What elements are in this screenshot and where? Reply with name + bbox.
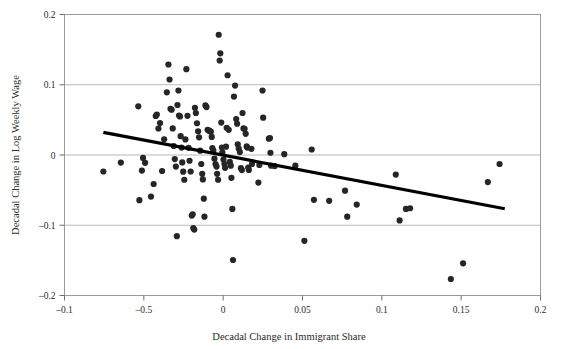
data-point (255, 179, 261, 185)
data-point (172, 156, 178, 162)
data-point (407, 205, 413, 211)
data-point (159, 168, 165, 174)
scatter-plot-figure: –0.1–0.500.050.10.150.2 0.20.10–0.1–0.2 … (0, 0, 563, 349)
data-point (239, 167, 245, 173)
data-point (222, 165, 228, 171)
data-point (218, 119, 224, 125)
data-point (203, 104, 209, 110)
data-point (148, 193, 154, 199)
data-point (267, 150, 273, 156)
data-point (191, 227, 197, 233)
data-point (485, 179, 491, 185)
data-point (165, 61, 171, 67)
data-point (209, 134, 215, 140)
data-point (208, 129, 214, 135)
data-point (239, 110, 245, 116)
data-point (260, 115, 266, 121)
data-point (173, 163, 179, 169)
data-point (342, 188, 348, 194)
data-point (169, 107, 175, 113)
data-point (397, 217, 403, 223)
data-point (232, 82, 238, 88)
data-point (192, 105, 198, 111)
data-point (199, 171, 205, 177)
data-point (223, 144, 229, 150)
data-point (170, 125, 176, 131)
data-point (234, 121, 240, 127)
y-tick-label: –0.2 (38, 291, 56, 301)
data-point (193, 110, 199, 116)
data-point (188, 168, 194, 174)
x-tick-label: –0.5 (135, 305, 153, 315)
y-axis-title: Decadal Change in Log Weekly Wage (10, 75, 21, 235)
data-point (184, 113, 190, 119)
data-point (161, 136, 167, 142)
data-point (217, 57, 223, 63)
data-point (201, 214, 207, 220)
data-point (155, 125, 161, 131)
data-point (166, 76, 172, 82)
data-point (198, 161, 204, 167)
data-point (216, 32, 222, 38)
data-point (301, 238, 307, 244)
data-point (196, 134, 202, 140)
data-point (174, 102, 180, 108)
data-point (201, 196, 207, 202)
data-point (215, 177, 221, 183)
chart-background (0, 0, 563, 349)
data-point (183, 66, 189, 72)
data-point (174, 233, 180, 239)
data-point (175, 87, 181, 93)
y-tick-label: 0.1 (44, 80, 56, 90)
y-tick-label: –0.1 (38, 221, 56, 231)
data-point (135, 103, 141, 109)
x-tick-label: 0.2 (535, 305, 547, 315)
data-point (237, 149, 243, 155)
data-point (181, 177, 187, 183)
data-point (231, 93, 237, 99)
data-point (136, 197, 142, 203)
data-point (151, 181, 157, 187)
data-point (448, 276, 454, 282)
data-point (393, 171, 399, 177)
data-point (118, 159, 124, 165)
data-point (100, 168, 106, 174)
data-point (230, 257, 236, 263)
data-point (182, 136, 188, 142)
x-tick-label: 0 (221, 305, 226, 315)
data-point (194, 120, 200, 126)
data-point (213, 163, 219, 169)
x-tick-label: 0.05 (294, 305, 311, 315)
data-point (157, 120, 163, 126)
data-point (195, 128, 201, 134)
data-point (139, 168, 145, 174)
x-tick-label: 0.15 (453, 305, 470, 315)
data-point (354, 201, 360, 207)
data-point (225, 72, 231, 78)
data-point (309, 146, 315, 152)
x-tick-label: –0.1 (55, 305, 73, 315)
data-point (190, 211, 196, 217)
y-tick-label: 0.2 (44, 10, 56, 20)
data-point (179, 159, 185, 165)
data-point (267, 135, 273, 141)
data-point (154, 112, 160, 118)
data-point (344, 214, 350, 220)
data-point (164, 89, 170, 95)
data-point (211, 156, 217, 162)
data-point (496, 161, 502, 167)
data-point (186, 158, 192, 164)
data-point (281, 151, 287, 157)
data-point (180, 169, 186, 175)
data-point (217, 50, 223, 56)
data-point (177, 113, 183, 119)
data-point (200, 176, 206, 182)
data-point (311, 197, 317, 203)
y-tick-label: 0 (51, 151, 56, 161)
data-point (228, 175, 234, 181)
x-axis-title: Decadal Change in Immigrant Share (212, 331, 366, 342)
data-point (259, 87, 265, 93)
data-point (228, 163, 234, 169)
data-point (243, 131, 249, 137)
data-point (214, 171, 220, 177)
